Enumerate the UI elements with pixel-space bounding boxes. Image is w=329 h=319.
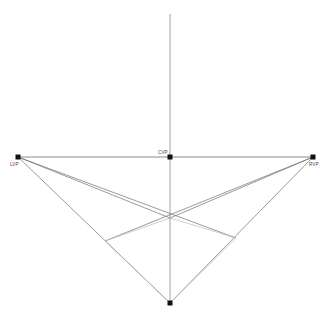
vanishing-point-marker-rvp[interactable] bbox=[311, 155, 316, 160]
vanishing-point-marker-lvp[interactable] bbox=[16, 155, 21, 160]
vanishing-point-label-rvp: RVP bbox=[309, 162, 319, 167]
box-edge-near-to-right-corner bbox=[170, 218, 236, 238]
box-edge-near-to-left-corner bbox=[105, 218, 170, 241]
rvp-to-left-corner bbox=[105, 157, 313, 241]
lvp-to-near-corner bbox=[18, 157, 170, 218]
rvp-to-bottom-vertex bbox=[170, 157, 313, 303]
vanishing-point-label-cvp: CVP bbox=[158, 150, 168, 155]
vanishing-point-marker-cvp[interactable] bbox=[168, 155, 173, 160]
box-edge-left-corner-to-bottom bbox=[105, 241, 170, 303]
rvp-to-near-corner bbox=[170, 157, 313, 218]
lines-layer bbox=[18, 14, 313, 303]
box-edge-right-corner-to-bottom bbox=[170, 238, 236, 303]
perspective-diagram-canvas: LVPCVPRVP bbox=[0, 0, 329, 319]
lvp-to-right-corner bbox=[18, 157, 236, 238]
vanishing-point-marker-bvp[interactable] bbox=[168, 301, 173, 306]
labels-layer: LVPCVPRVP bbox=[10, 150, 319, 167]
vanishing-point-label-lvp: LVP bbox=[10, 162, 19, 167]
points-layer bbox=[16, 155, 316, 306]
perspective-diagram: LVPCVPRVP bbox=[0, 0, 329, 319]
